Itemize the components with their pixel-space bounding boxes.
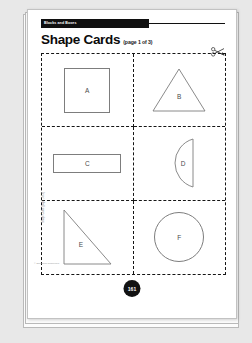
header-bar-label: Blocks and Boxes	[41, 19, 149, 28]
shape-right-triangle: E	[61, 208, 113, 266]
square-outline	[64, 68, 110, 113]
shape-card[interactable]: D	[134, 127, 226, 200]
rectangle-outline	[53, 154, 121, 173]
margin-label: Shape Cards (page 1 of 3)	[42, 179, 45, 237]
shape-card[interactable]: A	[42, 54, 134, 127]
scissors-icon	[210, 43, 226, 53]
shape-card-grid: A B C D	[41, 53, 226, 275]
header-bar: Blocks and Boxes	[41, 19, 149, 28]
shape-semicircle: D	[163, 137, 195, 189]
right-triangle-outline	[61, 208, 113, 266]
shape-rectangle: C	[53, 154, 121, 173]
header-rule	[149, 23, 225, 24]
worksheet-page: Blocks and Boxes Shape Cards (page 1 of …	[27, 9, 237, 319]
page-number-badge: 161	[124, 280, 141, 297]
shape-card[interactable]: B	[134, 54, 226, 127]
shape-circle: F	[154, 212, 204, 262]
semicircle-outline	[163, 137, 195, 189]
title-row: Shape Cards (page 1 of 3)	[41, 32, 153, 47]
triangle-outline	[151, 67, 207, 113]
shape-card[interactable]: C	[42, 127, 134, 200]
page-subtitle: (page 1 of 3)	[123, 39, 152, 45]
copyright-text: © Education Resources	[34, 262, 59, 265]
circle-outline	[154, 212, 204, 262]
shape-triangle: B	[151, 67, 207, 113]
shape-card[interactable]: F	[134, 201, 226, 274]
page-title: Shape Cards	[41, 32, 120, 47]
shape-square: A	[64, 68, 110, 113]
